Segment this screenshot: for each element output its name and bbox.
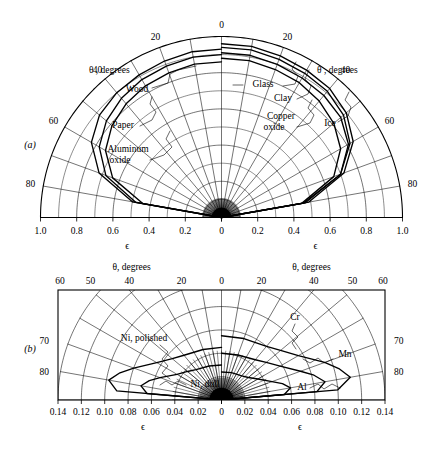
panel-b-theta-title-left: θ, degrees xyxy=(112,262,151,272)
panel-b-xtick-label-right: 0.06 xyxy=(283,407,300,417)
leader-wood xyxy=(152,66,196,88)
label-paper: Paper xyxy=(112,120,134,130)
panel-a-theta-label: 20 xyxy=(283,32,293,42)
panel-a-theta-label: 0 xyxy=(219,20,224,30)
label-clay: Clay xyxy=(274,93,292,103)
panel-a-theta-title-left: θ , degrees xyxy=(89,65,130,75)
panel-a-xtick-label-right: 0.4 xyxy=(288,226,300,236)
panel-a-theta-label: 20 xyxy=(151,32,161,42)
panel-b-theta-label-right-side: 70 xyxy=(394,336,404,346)
panel-b-xtick-label-right: 0.12 xyxy=(353,407,370,417)
panel-b-xtick-label-left: 0.12 xyxy=(73,407,90,417)
panel-a-xtick-label-left: 1.0 xyxy=(35,226,47,236)
panel-b-xtick-label-left: 0.02 xyxy=(190,407,207,417)
panel-b-theta-label-right-side: 80 xyxy=(394,367,404,377)
label-aluminum-oxide-2: oxide xyxy=(109,155,130,165)
curve-wood xyxy=(99,55,221,218)
panel-a-xtick-label-left: 0.2 xyxy=(179,226,191,236)
panel-b-theta-label-top: 50 xyxy=(348,276,358,286)
panel-b-theta-label-left-side: 70 xyxy=(40,336,50,346)
leader-paper xyxy=(140,97,156,126)
label-wood: Wood xyxy=(126,84,149,94)
figure-root: 1.00.80.60.40.200.20.40.60.81.0ϵϵ0202040… xyxy=(0,0,443,460)
panel-b-theta-label-top: 20 xyxy=(257,276,267,286)
panel-a-xtick-label-left: 0.8 xyxy=(71,226,83,236)
panel-b-theta-label-top: 60 xyxy=(55,276,65,286)
panel-a-xtick-label-right: 0.8 xyxy=(360,226,372,236)
panel-b-theta-label-top: 60 xyxy=(378,276,388,286)
panel-b-xtick-label-right: 0.08 xyxy=(307,407,324,417)
emissivity-polar-figure: 1.00.80.60.40.200.20.40.60.81.0ϵϵ0202040… xyxy=(0,0,443,460)
panel-a-theta-label: 80 xyxy=(26,179,36,189)
panel-a-letter: (a) xyxy=(24,139,36,151)
panel-a-xtick-label-left: 0 xyxy=(219,226,224,236)
label-mn: Mn xyxy=(338,349,351,359)
label-cr: Cr xyxy=(290,312,300,322)
panel-a-xtick-label-left: 0.4 xyxy=(143,226,155,236)
panel-b-theta-label-top: 0 xyxy=(219,276,224,286)
panel-a-theta-label: 60 xyxy=(49,116,59,126)
panel-a-xtick-label-left: 0.6 xyxy=(107,226,119,236)
label-copper-oxide-2: oxide xyxy=(263,122,284,132)
panel-b-theta-label-top: 40 xyxy=(124,276,134,286)
label-ni-polished: Ni, polished xyxy=(121,333,168,343)
panel-a-theta-label: 80 xyxy=(408,179,418,189)
panel-b-theta-title-right: θ, degrees xyxy=(292,262,331,272)
panel-a-xtick-label-right: 1.0 xyxy=(397,226,409,236)
curve-clay xyxy=(222,53,349,218)
label-copper-oxide-1: Copper xyxy=(267,111,296,121)
panel-a-eps-title-right: ϵ xyxy=(314,240,318,251)
label-glass: Glass xyxy=(252,79,273,89)
panel-a-theta-label: 60 xyxy=(385,116,395,126)
panel-b-xtick-label-right: 0.10 xyxy=(330,407,347,417)
panel-b-theta-label-top: 40 xyxy=(309,276,319,286)
panel-b-theta-label-top: 50 xyxy=(86,276,96,286)
label-al: Al xyxy=(297,382,307,392)
panel-b-xtick-label-right: 0.02 xyxy=(237,407,254,417)
panel-b-theta-label-top: 20 xyxy=(177,276,187,286)
label-ice: Ice xyxy=(324,118,336,128)
leader-al xyxy=(310,384,340,389)
curve-copper-oxide xyxy=(222,58,341,217)
label-ni-dull: Ni, dull xyxy=(190,379,219,389)
panel-b-xtick-label-right: 0.04 xyxy=(260,407,277,417)
panel-b-xtick-label-left: 0.10 xyxy=(96,407,113,417)
panel-b-xtick-label-right: 0.14 xyxy=(377,407,394,417)
panel-b-xtick-label-left: 0.06 xyxy=(143,407,160,417)
panel-a-theta-title-right: θ , degrees xyxy=(317,65,358,75)
panel-b-xtick-label-left: 0 xyxy=(219,407,224,417)
panel-b-eps-title-right: ϵ xyxy=(298,421,302,432)
panel-b-xtick-label-left: 0.04 xyxy=(166,407,183,417)
panel-a-eps-title-left: ϵ xyxy=(125,240,129,251)
label-aluminum-oxide-1: Aluminum xyxy=(107,144,149,154)
panel-b-eps-title-left: ϵ xyxy=(141,421,145,432)
panel-b-xtick-label-left: 0.14 xyxy=(50,407,67,417)
panel-b-theta-label-left-side: 80 xyxy=(40,367,50,377)
panel-a-xtick-label-right: 0.2 xyxy=(252,226,264,236)
panel-b-letter: (b) xyxy=(24,343,36,355)
panel-b-xtick-label-left: 0.08 xyxy=(120,407,137,417)
panel-a-xtick-label-right: 0.6 xyxy=(324,226,336,236)
